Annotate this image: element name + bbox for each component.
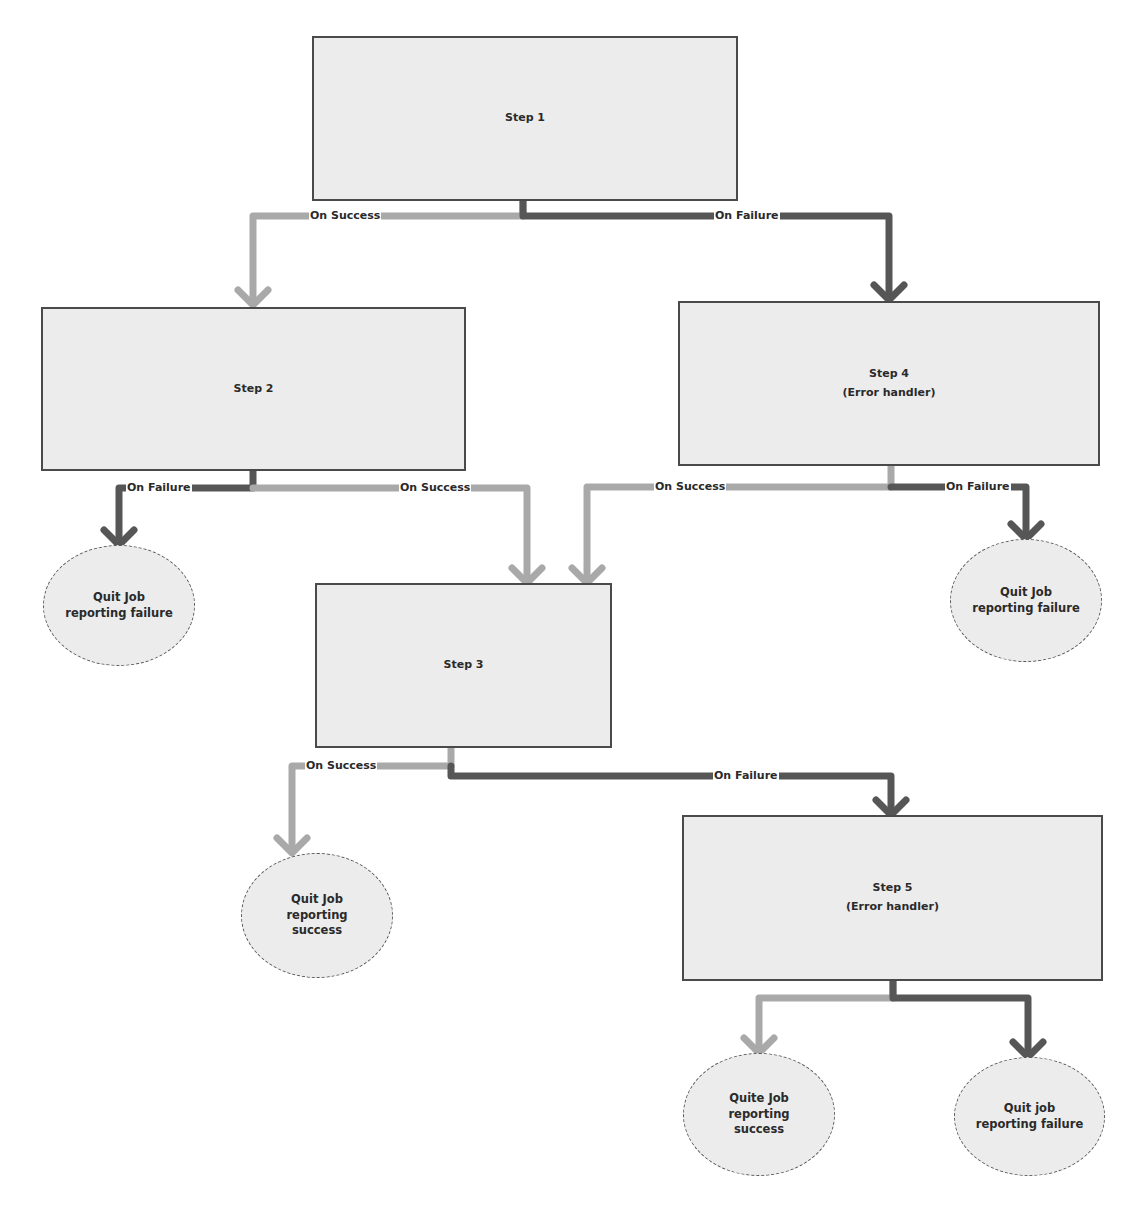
edge-label-step2-success: On Success <box>399 482 471 494</box>
node-title: Step 3 <box>444 656 484 675</box>
terminal-quit-success-step5: Quite Job reporting success <box>683 1053 835 1176</box>
terminal-text: reporting <box>286 908 347 924</box>
terminal-quit-failure-step2: Quit Job reporting failure <box>43 545 195 666</box>
terminal-text: success <box>734 1122 784 1138</box>
terminal-text: Quit job <box>1004 1101 1055 1117</box>
edge-label-step4-failure: On Failure <box>945 481 1011 493</box>
edge-label-step1-failure: On Failure <box>714 210 780 222</box>
terminal-text: reporting failure <box>976 1117 1083 1133</box>
edge-label-step4-success: On Success <box>654 481 726 493</box>
edge-step1-success <box>253 201 523 300</box>
node-step-2: Step 2 <box>41 307 466 471</box>
terminal-text: reporting failure <box>972 601 1079 617</box>
terminal-text: reporting <box>728 1107 789 1123</box>
edge-step5-failure <box>893 981 1028 1050</box>
edge-step5-success <box>759 981 893 1046</box>
terminal-text: Quit Job <box>1000 585 1052 601</box>
node-step-3: Step 3 <box>315 583 612 748</box>
terminal-text: Quit Job <box>291 892 343 908</box>
node-step-4: Step 4 (Error handler) <box>678 301 1100 466</box>
edge-step1-failure <box>523 201 889 293</box>
terminal-text: success <box>292 923 342 939</box>
terminal-quit-failure-step4: Quit Job reporting failure <box>950 539 1102 662</box>
edge-step4-failure <box>891 487 1026 532</box>
edge-step4-success <box>587 466 891 576</box>
terminal-text: Quit Job <box>93 590 145 606</box>
edge-label-step2-failure: On Failure <box>126 482 192 494</box>
node-step-5: Step 5 (Error handler) <box>682 815 1103 981</box>
edge-label-step1-success: On Success <box>309 210 381 222</box>
terminal-quit-failure-step5: Quit job reporting failure <box>954 1057 1105 1176</box>
edge-step3-failure <box>451 766 891 808</box>
node-title: Step 4 <box>869 365 909 384</box>
edge-label-step3-failure: On Failure <box>713 770 779 782</box>
terminal-text: Quite Job <box>729 1091 789 1107</box>
node-title: Step 1 <box>505 109 545 128</box>
terminal-text: reporting failure <box>65 606 172 622</box>
node-step-1: Step 1 <box>312 36 738 201</box>
node-title: Step 5 <box>873 879 913 898</box>
terminal-quit-success-step3: Quit Job reporting success <box>241 853 393 978</box>
edge-label-step3-success: On Success <box>305 760 377 772</box>
node-subtitle: (Error handler) <box>843 384 936 403</box>
edge-step2-success <box>253 488 527 576</box>
node-subtitle: (Error handler) <box>846 898 939 917</box>
node-title: Step 2 <box>234 380 274 399</box>
